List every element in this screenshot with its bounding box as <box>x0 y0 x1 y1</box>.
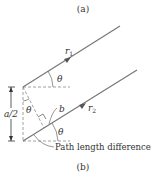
theta-label-top: θ <box>57 74 63 84</box>
angle-arc-middle <box>23 99 29 101</box>
label-half-spacing: a/2 <box>4 109 18 119</box>
label-r1: r1 <box>65 46 73 57</box>
angle-arc-top <box>48 71 53 87</box>
caption-a: (a) <box>77 4 89 14</box>
label-b: b <box>59 104 65 114</box>
dimension-arrow-up-icon <box>9 87 13 92</box>
dimension-arrow-down-icon <box>9 136 13 141</box>
diagram-canvas: (a) (b) r1 r2 θ θ θ a/2 b Path length di… <box>0 0 167 175</box>
arrow-r1-icon <box>64 57 71 63</box>
label-path-difference: Path length difference <box>55 142 151 152</box>
leader-b <box>49 108 57 124</box>
theta-label-bottom: θ <box>58 127 64 137</box>
label-r2: r2 <box>88 103 96 114</box>
theta-label-middle: θ <box>26 105 32 115</box>
caption-b: (b) <box>77 162 90 172</box>
